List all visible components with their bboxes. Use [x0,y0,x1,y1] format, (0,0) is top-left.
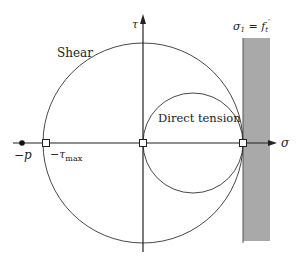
tension-cutoff-label: σ1 = ft′ [233,18,270,34]
tau-axis-label: τ [132,18,139,31]
cutoff-prime: ′ [268,18,270,28]
tau-axis-arrow-icon [140,14,146,24]
origin-marker [140,140,147,147]
neg-tau-max-sub: max [65,154,82,163]
sigma-axis-label: σ [281,136,290,150]
neg-tau-max-label: −τmax [50,148,83,163]
neg-tau-max-base: −τ [50,148,66,161]
shear-label: Shear [57,46,93,60]
direct-tension-label: Direct tension [158,111,241,125]
tension-cutoff-band [243,38,270,241]
tension-strength-marker [240,140,247,147]
cutoff-equals: = [245,20,261,33]
neg-p-dot [19,140,25,146]
neg-p-label: −p [14,148,32,162]
sigma-axis-arrow-icon [268,140,277,146]
mohr-circle-diagram: Shear Direct tension τ σ −p −τmax σ1 = f… [0,0,300,261]
neg-tau-max-marker [43,140,50,147]
